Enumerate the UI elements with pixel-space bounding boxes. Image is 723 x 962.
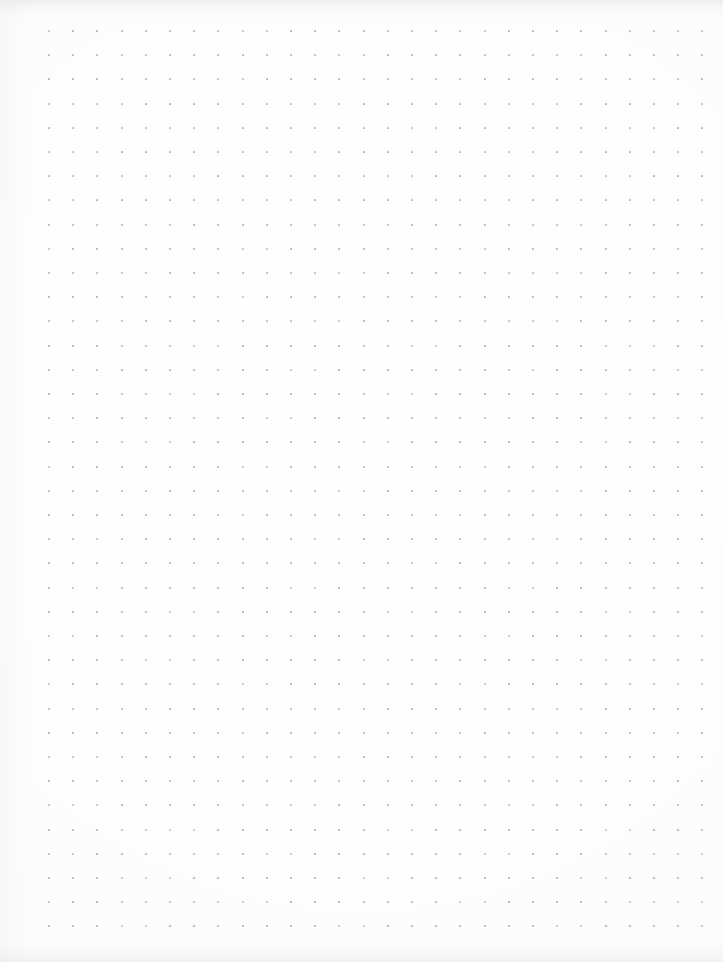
grid-dot	[532, 514, 534, 516]
grid-dot	[629, 127, 631, 129]
grid-dot	[677, 587, 679, 589]
grid-dot	[338, 659, 340, 661]
grid-dot	[266, 804, 268, 806]
grid-dot	[629, 538, 631, 540]
grid-dot	[48, 538, 50, 540]
grid-dot	[701, 587, 703, 589]
grid-dot	[266, 272, 268, 274]
grid-dot	[411, 683, 413, 685]
grid-dot	[217, 732, 219, 734]
grid-dot	[387, 54, 389, 56]
grid-dot	[387, 538, 389, 540]
grid-dot	[459, 248, 461, 250]
dot-grid-pattern	[0, 0, 723, 962]
grid-dot	[121, 78, 123, 80]
grid-dot	[242, 732, 244, 734]
grid-dot	[701, 732, 703, 734]
grid-dot	[121, 804, 123, 806]
grid-dot	[363, 345, 365, 347]
grid-dot	[145, 659, 147, 661]
grid-dot	[72, 925, 74, 927]
grid-dot	[145, 562, 147, 564]
grid-dot	[411, 224, 413, 226]
grid-dot	[48, 829, 50, 831]
grid-dot	[629, 659, 631, 661]
grid-dot	[508, 224, 510, 226]
grid-dot	[484, 272, 486, 274]
grid-dot	[96, 151, 98, 153]
grid-dot	[459, 369, 461, 371]
grid-dot	[242, 224, 244, 226]
grid-dot	[363, 635, 365, 637]
grid-dot	[217, 224, 219, 226]
grid-dot	[435, 393, 437, 395]
grid-dot	[532, 224, 534, 226]
grid-dot	[290, 441, 292, 443]
grid-dot	[193, 829, 195, 831]
grid-dot	[508, 466, 510, 468]
grid-dot	[290, 538, 292, 540]
grid-dot	[266, 417, 268, 419]
grid-dot	[266, 877, 268, 879]
grid-dot	[556, 175, 558, 177]
grid-dot	[532, 127, 534, 129]
grid-dot	[338, 708, 340, 710]
grid-dot	[677, 659, 679, 661]
grid-dot	[435, 417, 437, 419]
grid-dot	[459, 538, 461, 540]
grid-dot	[121, 272, 123, 274]
grid-dot	[508, 611, 510, 613]
grid-dot	[677, 780, 679, 782]
grid-dot	[459, 635, 461, 637]
grid-dot	[169, 611, 171, 613]
grid-dot	[677, 562, 679, 564]
grid-dot	[145, 490, 147, 492]
grid-dot	[96, 30, 98, 32]
dot-grid-page	[0, 0, 723, 962]
grid-dot	[266, 248, 268, 250]
grid-dot	[701, 635, 703, 637]
grid-dot	[484, 78, 486, 80]
grid-dot	[363, 659, 365, 661]
grid-dot	[411, 296, 413, 298]
grid-dot	[508, 127, 510, 129]
grid-dot	[435, 611, 437, 613]
grid-dot	[701, 611, 703, 613]
grid-dot	[193, 925, 195, 927]
grid-dot	[435, 780, 437, 782]
grid-dot	[193, 659, 195, 661]
grid-dot	[72, 635, 74, 637]
grid-dot	[387, 224, 389, 226]
grid-dot	[508, 538, 510, 540]
grid-dot	[217, 127, 219, 129]
grid-dot	[580, 30, 582, 32]
grid-dot	[145, 417, 147, 419]
grid-dot	[48, 151, 50, 153]
grid-dot	[48, 635, 50, 637]
grid-dot	[653, 248, 655, 250]
grid-dot	[121, 877, 123, 879]
grid-dot	[217, 345, 219, 347]
grid-dot	[580, 54, 582, 56]
grid-dot	[363, 320, 365, 322]
grid-dot	[121, 756, 123, 758]
grid-dot	[48, 901, 50, 903]
grid-dot	[266, 320, 268, 322]
grid-dot	[266, 732, 268, 734]
grid-dot	[459, 30, 461, 32]
grid-dot	[72, 756, 74, 758]
grid-dot	[532, 30, 534, 32]
grid-dot	[387, 587, 389, 589]
grid-dot	[96, 901, 98, 903]
grid-dot	[96, 248, 98, 250]
grid-dot	[96, 659, 98, 661]
grid-dot	[72, 562, 74, 564]
grid-dot	[411, 393, 413, 395]
grid-dot	[290, 151, 292, 153]
grid-dot	[556, 756, 558, 758]
grid-dot	[508, 296, 510, 298]
grid-dot	[677, 708, 679, 710]
grid-dot	[242, 635, 244, 637]
grid-dot	[580, 877, 582, 879]
grid-dot	[145, 611, 147, 613]
